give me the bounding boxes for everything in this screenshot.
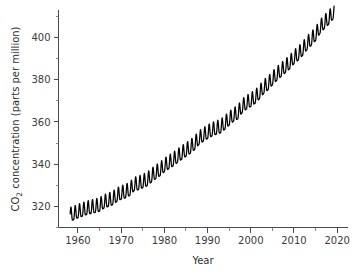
y-axis-title: CO2 concentration (parts per million) [10, 26, 24, 211]
y-axis-title-suffix: concentration (parts per million) [10, 26, 21, 192]
x-axis-tick-label: 1980 [152, 235, 177, 246]
co2-line-series [70, 6, 334, 220]
y-axis-tick-label: 400 [31, 32, 50, 43]
x-axis-ticks: 1960197019801990200020102020 [65, 228, 350, 246]
co2-concentration-chart: 320340360380400 196019701980199020002010… [0, 0, 355, 276]
x-axis-tick-label: 1960 [65, 235, 90, 246]
chart-canvas: 320340360380400 196019701980199020002010… [0, 0, 355, 276]
x-axis-tick-label: 2020 [324, 235, 349, 246]
y-axis-tick-label: 380 [31, 74, 50, 85]
data-series-layer [70, 6, 334, 220]
x-axis-tick-label: 2000 [238, 235, 263, 246]
y-axis-tick-label: 320 [31, 201, 50, 212]
y-axis-tick-label: 340 [31, 159, 50, 170]
x-axis-tick-label: 1970 [108, 235, 133, 246]
y-axis-title-prefix: CO [10, 197, 21, 212]
y-axis-ticks: 320340360380400 [31, 16, 58, 227]
x-axis-tick-label: 2010 [281, 235, 306, 246]
y-axis-tick-label: 360 [31, 117, 50, 128]
x-axis-tick-label: 1990 [195, 235, 220, 246]
x-axis-title: Year [191, 255, 214, 266]
